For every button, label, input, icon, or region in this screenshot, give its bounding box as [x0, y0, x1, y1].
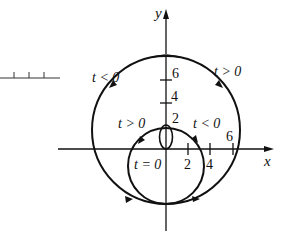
- label-origin: t = 0: [134, 157, 161, 172]
- x-tick-label-2: 2: [184, 157, 191, 172]
- label-inner-left: t > 0: [118, 116, 145, 131]
- label-outer-left: t < 0: [92, 70, 119, 85]
- stray-scale-fragment: [0, 72, 60, 78]
- x-axis-label: x: [263, 153, 271, 169]
- y-axis: [163, 9, 169, 231]
- y-tick-label-2: 2: [172, 111, 179, 126]
- y-tick-label-4: 4: [171, 89, 178, 104]
- label-outer-right: t > 0: [214, 64, 241, 79]
- x-tick-label-4: 4: [206, 157, 213, 172]
- parametric-curve-diagram: y x 2 4 6 2 4 6 t < 0 t > 0 t > 0 t < 0 …: [0, 0, 292, 231]
- arrow-outer-bottom-left-icon: [125, 196, 133, 203]
- label-inner-right: t < 0: [193, 116, 220, 131]
- y-axis-label: y: [153, 5, 162, 21]
- x-tick-label-6: 6: [226, 129, 233, 144]
- y-tick-label-6: 6: [172, 66, 179, 81]
